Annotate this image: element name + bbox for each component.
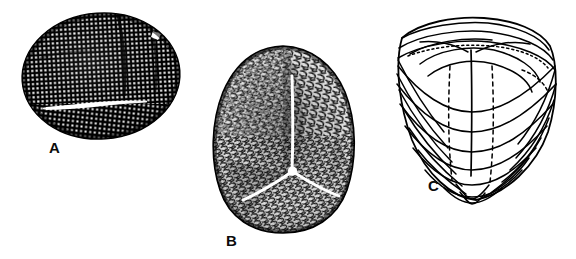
- specimen-c-rim-1: [402, 23, 549, 50]
- hidden-line-left: [449, 66, 452, 180]
- panel-label-b: B: [226, 233, 237, 248]
- specimen-c-inner-ring-2: [428, 61, 532, 92]
- specimen-c: [372, 8, 572, 208]
- trilete-junction: [288, 166, 297, 175]
- trilete-arm-up: [292, 76, 293, 170]
- hidden-line-right: [490, 66, 493, 182]
- specimen-b-shading: [199, 34, 375, 246]
- figure-plate: A: [0, 0, 576, 259]
- specimen-c-drawing: [372, 8, 572, 208]
- trilete-suture-vertical: [471, 50, 472, 176]
- specimen-a-drawing: [0, 0, 200, 160]
- specimen-b-drawing: [205, 40, 365, 240]
- specimen-a: [0, 0, 200, 160]
- specimen-b-body: [199, 34, 375, 246]
- panel-label-a: A: [49, 140, 60, 155]
- specimen-c-contours: [397, 18, 556, 204]
- specimen-b: [205, 40, 365, 240]
- panel-label-c: C: [428, 178, 439, 193]
- specimen-a-body: [0, 0, 200, 160]
- specimen-c-rim-2: [399, 31, 553, 60]
